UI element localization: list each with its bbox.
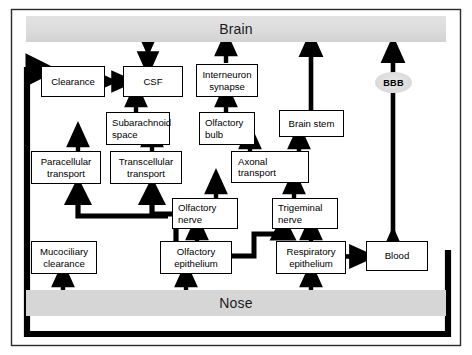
node-axonal-transport-line-1: Axonal (238, 156, 267, 167)
node-interneuron-synapse-line-1: Interneuron (202, 69, 251, 80)
node-paracellular-transport-line-1: Paracellular (41, 156, 92, 167)
node-olfactory-epithelium-line-1: Olfactory (177, 246, 215, 257)
node-olfactory-nerve-line-1: Olfactory (178, 202, 216, 213)
node-mucociliary-clearance-line-1: Mucociliary (40, 246, 88, 257)
node-clearance[interactable]: Clearance (41, 66, 105, 97)
node-olfactory-bulb-line-1: Olfactory (205, 117, 243, 128)
node-csf-line-1: CSF (143, 76, 162, 87)
node-olfactory-bulb-line-2: bulb (205, 129, 223, 140)
band-nose-label: Nose (219, 295, 252, 311)
node-olfactory-nerve[interactable]: Olfactory nerve (172, 198, 238, 229)
node-olfactory-bulb[interactable]: Olfactory bulb (199, 112, 255, 145)
node-interneuron-synapse[interactable]: Interneuron synapse (196, 64, 258, 97)
node-trigeminal-nerve-line-1: Trigeminal (278, 202, 322, 213)
node-transcellular-transport-line-1: Transcellular (119, 156, 174, 167)
node-trigeminal-nerve[interactable]: Trigeminal nerve (272, 198, 338, 229)
node-transcellular-transport-line-2: transport (127, 168, 165, 179)
node-blood[interactable]: Blood (366, 241, 428, 271)
node-paracellular-transport[interactable]: Paracellular transport (31, 151, 101, 184)
node-blood-line-1: Blood (385, 250, 410, 261)
band-nose: Nose (26, 290, 446, 316)
node-brain-stem[interactable]: Brain stem (279, 110, 344, 137)
node-mucociliary-clearance[interactable]: Mucociliary clearance (31, 241, 97, 274)
node-brain-stem-line-1: Brain stem (289, 118, 335, 129)
node-clearance-line-1: Clearance (51, 76, 95, 87)
band-brain: Brain (26, 16, 446, 42)
node-subarachnoid-space[interactable]: Subarachnoid space (106, 112, 170, 145)
node-respiratory-epithelium[interactable]: Respiratory epithelium (276, 241, 346, 274)
node-respiratory-epithelium-line-2: epithelium (289, 258, 333, 269)
diagram-canvas: Brain Nose Clearance CSF Interneuron syn… (0, 0, 472, 355)
node-bbb-label: BBB (383, 78, 404, 88)
node-csf[interactable]: CSF (123, 66, 183, 97)
node-olfactory-epithelium[interactable]: Olfactory epithelium (160, 241, 232, 274)
node-transcellular-transport[interactable]: Transcellular transport (110, 151, 182, 184)
node-axonal-transport-line-2: transport (238, 167, 276, 178)
node-interneuron-synapse-line-2: synapse (209, 81, 245, 92)
band-brain-label: Brain (219, 21, 253, 37)
node-subarachnoid-space-line-2: space (112, 129, 138, 140)
node-olfactory-epithelium-line-2: epithelium (174, 258, 218, 269)
node-mucociliary-clearance-line-2: clearance (43, 258, 85, 269)
node-subarachnoid-space-line-1: Subarachnoid (112, 117, 171, 128)
node-respiratory-epithelium-line-1: Respiratory (286, 246, 335, 257)
node-olfactory-nerve-line-2: nerve (178, 214, 202, 225)
node-bbb[interactable]: BBB (375, 72, 412, 93)
node-axonal-transport[interactable]: Axonal transport (231, 151, 309, 183)
node-trigeminal-nerve-line-2: nerve (278, 214, 302, 225)
node-paracellular-transport-line-2: transport (47, 168, 85, 179)
